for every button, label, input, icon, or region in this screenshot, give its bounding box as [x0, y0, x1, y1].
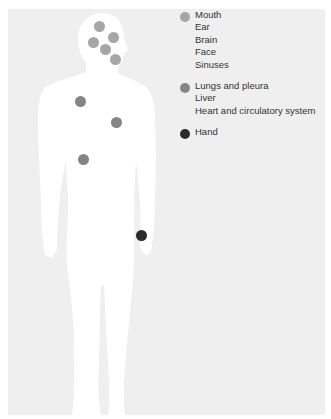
- mid-marker-dot: [75, 96, 86, 107]
- light-marker-dot: [100, 44, 111, 55]
- dark-dot-icon: [180, 129, 190, 139]
- dark-marker-dot: [136, 230, 147, 241]
- diagram-panel: Mouth Ear Brain Face Sinuses Lungs and p…: [8, 9, 325, 415]
- mid-grey-dot-icon: [180, 83, 190, 93]
- legend-item: Lungs and pleura: [195, 80, 315, 92]
- legend-item: Liver: [195, 92, 315, 104]
- legend-item: Sinuses: [195, 59, 315, 71]
- legend-item: Ear: [195, 21, 315, 33]
- legend: Mouth Ear Brain Face Sinuses Lungs and p…: [180, 9, 315, 148]
- legend-group-torso: Lungs and pleura Liver Heart and circula…: [180, 80, 315, 117]
- light-grey-dot-icon: [180, 12, 190, 22]
- legend-item: Heart and circulatory system: [195, 105, 315, 117]
- mid-marker-dot: [111, 117, 122, 128]
- legend-item: Face: [195, 46, 315, 58]
- legend-item: Brain: [195, 34, 315, 46]
- mid-marker-dot: [78, 154, 89, 165]
- legend-group-hand: Hand: [180, 126, 315, 138]
- light-marker-dot: [88, 37, 99, 48]
- legend-item: Mouth: [195, 9, 315, 21]
- legend-item: Hand: [195, 126, 315, 138]
- light-marker-dot: [108, 32, 119, 43]
- light-marker-dot: [110, 54, 121, 65]
- light-marker-dot: [94, 21, 105, 32]
- legend-group-head: Mouth Ear Brain Face Sinuses: [180, 9, 315, 71]
